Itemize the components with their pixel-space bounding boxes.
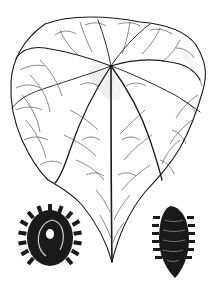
seed-side-drawing	[152, 206, 195, 278]
seed-face-drawing	[18, 204, 82, 266]
illustration-canvas: botanical illustration	[0, 0, 215, 290]
